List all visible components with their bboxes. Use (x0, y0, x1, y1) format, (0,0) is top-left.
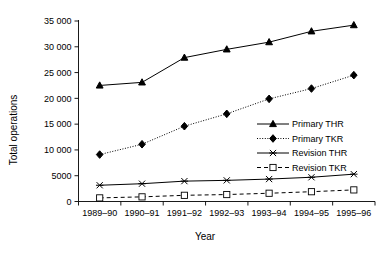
series-primary-tkr (96, 71, 357, 158)
y-tick-label: 0 (66, 197, 71, 207)
x-tick-label: 1990–91 (125, 208, 160, 218)
data-point-marker (139, 79, 146, 85)
data-point-marker (350, 22, 357, 28)
y-tick-label: 30 000 (44, 42, 72, 52)
y-tick-label: 25 000 (44, 68, 72, 78)
data-point-marker (97, 195, 103, 201)
y-axis-ticks: 0500010 00015 00020 00025 00030 00035 00… (44, 16, 79, 207)
legend-label: Primary THR (292, 119, 344, 129)
y-tick-label: 20 000 (44, 94, 72, 104)
x-axis-ticks: 1989–901990–911991–921992–931993–941994–… (79, 202, 376, 218)
data-point-marker (139, 140, 146, 148)
y-tick-label: 15 000 (44, 119, 72, 129)
data-point-marker (223, 110, 230, 118)
data-point-marker (223, 177, 230, 183)
data-point-marker (265, 176, 272, 182)
data-point-marker (308, 174, 315, 180)
x-tick-label: 1989–90 (82, 208, 117, 218)
series-revision-thr (96, 171, 358, 188)
data-point-marker (266, 95, 273, 103)
x-tick-label: 1992–93 (209, 208, 244, 218)
data-point-marker (224, 191, 230, 197)
legend-label: Revision THR (292, 148, 348, 158)
series-primary-thr (96, 22, 357, 89)
y-tick-label: 10 000 (44, 145, 72, 155)
legend-swatch-marker (269, 150, 276, 156)
legend-item-revision-tkr[interactable]: Revision TKR (257, 163, 347, 173)
legend-item-primary-tkr[interactable]: Primary TKR (257, 134, 344, 144)
y-tick-label: 5000 (51, 171, 71, 181)
y-tick-label: 35 000 (44, 16, 72, 26)
series-line (100, 25, 354, 85)
data-point-marker (350, 171, 357, 177)
legend-swatch-marker (270, 135, 277, 143)
legend-swatch-marker (270, 164, 276, 170)
data-point-marker (351, 71, 358, 79)
data-point-marker (308, 189, 314, 195)
y-axis-title: Total operations (8, 95, 19, 166)
x-tick-label: 1994–95 (294, 208, 329, 218)
legend-item-primary-thr[interactable]: Primary THR (257, 119, 344, 129)
data-point-marker (138, 181, 145, 187)
data-point-marker (96, 182, 103, 188)
x-axis-title: Year (195, 231, 216, 242)
legend-label: Revision TKR (292, 163, 347, 173)
data-point-marker (181, 122, 188, 130)
data-point-marker (139, 194, 145, 200)
chart-container: Total operations 0500010 00015 00020 000… (0, 0, 391, 254)
data-point-marker (181, 178, 188, 184)
data-point-marker (266, 190, 272, 196)
line-chart: Total operations 0500010 00015 00020 000… (0, 0, 391, 254)
chart-legend: Primary THRPrimary TKRRevision THRRevisi… (257, 119, 348, 173)
legend-item-revision-thr[interactable]: Revision THR (257, 148, 348, 158)
x-tick-label: 1991–92 (167, 208, 202, 218)
data-point-marker (181, 192, 187, 198)
x-tick-label: 1995–96 (336, 208, 371, 218)
data-point-marker (308, 85, 315, 93)
legend-label: Primary TKR (292, 134, 344, 144)
series-revision-tkr (97, 187, 357, 201)
x-tick-label: 1993–94 (252, 208, 287, 218)
series-layer (96, 22, 358, 201)
data-point-marker (96, 151, 103, 159)
data-point-marker (351, 187, 357, 193)
